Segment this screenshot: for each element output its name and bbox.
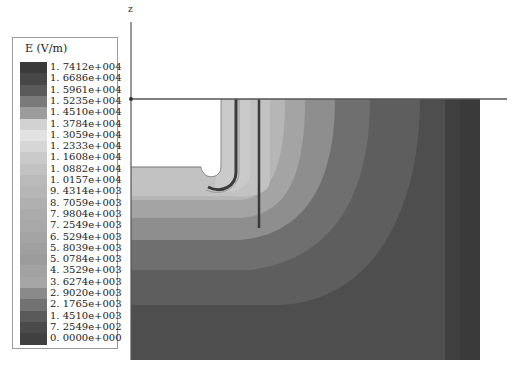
legend-swatch <box>20 254 47 266</box>
legend-label: 1. 6686e+004 <box>50 72 122 84</box>
legend-swatch <box>20 288 47 300</box>
legend-swatch <box>20 209 47 221</box>
z-axis-label: z <box>128 4 133 14</box>
cavity-cutout <box>131 99 221 177</box>
legend-swatch <box>20 311 47 323</box>
legend-swatch <box>20 141 47 153</box>
legend-swatch <box>20 130 47 142</box>
legend-swatch <box>20 107 47 119</box>
legend-label: 7. 2549e+003 <box>50 219 122 231</box>
legend-label: 8. 7059e+003 <box>50 197 122 209</box>
legend-swatch <box>20 73 47 85</box>
legend-swatch <box>20 164 47 176</box>
legend-swatch <box>20 277 47 289</box>
legend-entry: 0. 0000e+000 <box>20 333 116 345</box>
legend-swatch <box>20 186 47 198</box>
legend-swatch <box>20 62 47 74</box>
legend-swatch <box>20 232 47 244</box>
legend-label: 1. 4510e+004 <box>50 106 122 118</box>
legend-label: 5. 0784e+003 <box>50 253 122 265</box>
legend-label: 1. 2333e+004 <box>50 140 122 152</box>
legend-label: 9. 4314e+003 <box>50 185 122 197</box>
legend-swatch <box>20 322 47 334</box>
legend-label: 1. 7412e+004 <box>50 61 122 73</box>
legend-label: 4. 3529e+003 <box>50 264 122 276</box>
legend-title: E (V/m) <box>25 42 67 55</box>
legend-label: 2. 9020e+003 <box>50 287 122 299</box>
legend-swatch <box>20 198 47 210</box>
legend-swatch <box>20 85 47 97</box>
legend-label: 1. 3059e+004 <box>50 129 122 141</box>
legend-label: 1. 5961e+004 <box>50 84 122 96</box>
legend-label: 1. 0882e+004 <box>50 163 122 175</box>
legend-swatch <box>20 220 47 232</box>
legend-swatch <box>20 175 47 187</box>
legend-label: 7. 9804e+003 <box>50 208 122 220</box>
legend-label: 2. 1765e+003 <box>50 298 122 310</box>
legend-label: 1. 3784e+004 <box>50 118 122 130</box>
legend-label: 1. 4510e+003 <box>50 310 122 322</box>
legend-swatch <box>20 333 47 345</box>
legend-swatch <box>20 265 47 277</box>
legend-label: 3. 6274e+003 <box>50 276 122 288</box>
origin-point <box>129 97 133 101</box>
legend-label: 0. 0000e+000 <box>50 332 122 344</box>
legend-label: 6. 5294e+003 <box>50 231 122 243</box>
legend-swatch <box>20 299 47 311</box>
legend-label: 7. 2549e+002 <box>50 321 122 333</box>
legend-swatch <box>20 119 47 131</box>
legend: E (V/m) 1. 7412e+0041. 6686e+0041. 5961e… <box>12 37 118 349</box>
legend-swatch <box>20 96 47 108</box>
legend-swatch <box>20 243 47 255</box>
legend-swatch <box>20 152 47 164</box>
legend-label: 1. 5235e+004 <box>50 95 122 107</box>
legend-label: 1. 1608e+004 <box>50 151 122 163</box>
legend-label: 1. 0157e+004 <box>50 174 122 186</box>
legend-label: 5. 8039e+003 <box>50 242 122 254</box>
